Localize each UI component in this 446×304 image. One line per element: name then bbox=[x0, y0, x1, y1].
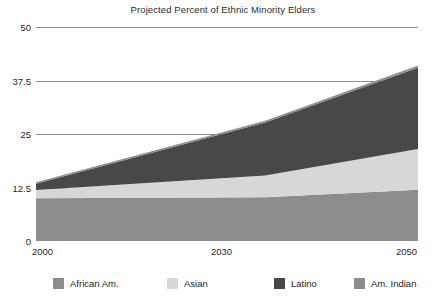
y-tick-label-12-5: 12.5 bbox=[0, 182, 31, 193]
y-tick-label-50: 50 bbox=[0, 22, 31, 33]
x-tick-label-2000: 2000 bbox=[32, 246, 53, 257]
legend-label: Latino bbox=[291, 278, 317, 289]
x-tick-label-2050: 2050 bbox=[396, 246, 417, 257]
legend-item-african-am[interactable]: African Am. bbox=[53, 278, 119, 289]
legend-label: Asian bbox=[184, 278, 208, 289]
chart-container: Projected Percent of Ethnic Minority Eld… bbox=[0, 0, 446, 304]
x-tick-label-2030: 2030 bbox=[211, 246, 232, 257]
legend-label: African Am. bbox=[70, 278, 119, 289]
legend-swatch-icon bbox=[274, 278, 285, 289]
legend-label: Am. Indian bbox=[371, 278, 416, 289]
legend-item-latino[interactable]: Latino bbox=[274, 278, 317, 289]
plot-area bbox=[36, 27, 418, 241]
y-tick-label-0: 0 bbox=[0, 236, 31, 247]
legend-item-asian[interactable]: Asian bbox=[167, 278, 208, 289]
chart-legend: African Am. Asian Latino Am. Indian bbox=[0, 272, 446, 294]
y-tick-label-25: 25 bbox=[0, 129, 31, 140]
x-axis-labels: 2000 2030 2050 bbox=[0, 246, 446, 260]
legend-swatch-icon bbox=[53, 278, 64, 289]
legend-swatch-icon bbox=[167, 278, 178, 289]
legend-item-am-indian[interactable]: Am. Indian bbox=[354, 278, 416, 289]
y-tick-label-37-5: 37.5 bbox=[0, 75, 31, 86]
stacked-area-plot bbox=[36, 27, 418, 241]
legend-swatch-icon bbox=[354, 278, 365, 289]
